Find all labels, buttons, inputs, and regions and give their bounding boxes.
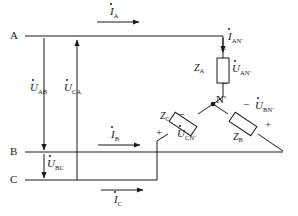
current-label-ic: IC	[114, 194, 122, 205]
voltage-ucn-symbol: U	[177, 128, 185, 139]
voltage-label-uca: UCA	[64, 82, 81, 93]
voltage-uca-sub: CA	[72, 88, 81, 95]
polarity-minus-zc: −	[178, 109, 184, 120]
voltage-uca-symbol: U	[64, 82, 72, 93]
current-ia-sub: A	[114, 12, 119, 19]
circuit-diagram: A B C N' ZA ZB ZC IA IB IC IAN' UAB UCA …	[0, 0, 298, 216]
terminal-label-c: C	[10, 174, 17, 185]
circuit-schematic-canvas	[0, 0, 298, 216]
voltage-ubn-symbol: U	[255, 100, 263, 111]
terminal-label-b: B	[10, 146, 17, 157]
voltage-ubn-sub: BN'	[263, 106, 274, 113]
current-label-ian: IAN'	[228, 31, 243, 42]
node-label-prime: '	[224, 93, 226, 105]
wire-zb-to-corner	[258, 134, 283, 151]
impedance-zb-sub: B	[239, 136, 243, 143]
wire-node-to-zb	[213, 104, 228, 114]
polarity-plus-zc: +	[156, 127, 162, 138]
voltage-ubc-symbol: U	[47, 158, 55, 169]
polarity-minus-zb: −	[243, 99, 249, 110]
current-ic-sub: C	[118, 200, 123, 207]
voltage-label-ubc: UBC	[47, 158, 64, 169]
polarity-plus-zb: +	[265, 119, 271, 130]
impedance-zc-sub: C	[166, 115, 170, 122]
node-label-n-text: N	[216, 93, 224, 105]
impedance-zb-symbol: Z	[233, 131, 239, 142]
impedance-za-sub: A	[200, 67, 205, 74]
voltage-label-ubn: UBN'	[255, 100, 274, 111]
voltage-ubc-sub: BC	[55, 164, 64, 171]
voltage-uan-symbol: U	[232, 63, 240, 74]
current-ian-sub: AN'	[232, 37, 243, 44]
current-label-ib: IB	[111, 129, 119, 140]
impedance-za-symbol: Z	[194, 62, 200, 73]
voltage-uab-sub: AB	[38, 88, 47, 95]
current-label-ia: IA	[110, 6, 119, 17]
voltage-label-uan: UAN'	[232, 63, 251, 74]
voltage-uab-symbol: U	[30, 82, 38, 93]
wire-node-to-zc	[198, 104, 213, 114]
impedance-label-zb: ZB	[233, 132, 243, 142]
polarity-minus-za: −	[221, 78, 227, 89]
voltage-uan-sub: AN'	[240, 69, 251, 76]
node-label-n-prime: N'	[216, 94, 226, 105]
voltage-label-uab: UAB	[30, 82, 47, 93]
voltage-ucn-sub: CN'	[185, 134, 196, 141]
voltage-label-ucn: UCN'	[177, 128, 196, 139]
impedance-label-zc: ZC	[160, 111, 170, 121]
impedance-label-za: ZA	[194, 63, 204, 73]
current-ib-sub: B	[115, 135, 120, 142]
impedance-zc-symbol: Z	[160, 110, 166, 121]
junction-dot-n-prime	[211, 102, 216, 107]
polarity-plus-za: +	[220, 44, 226, 55]
terminal-label-a: A	[10, 30, 18, 41]
